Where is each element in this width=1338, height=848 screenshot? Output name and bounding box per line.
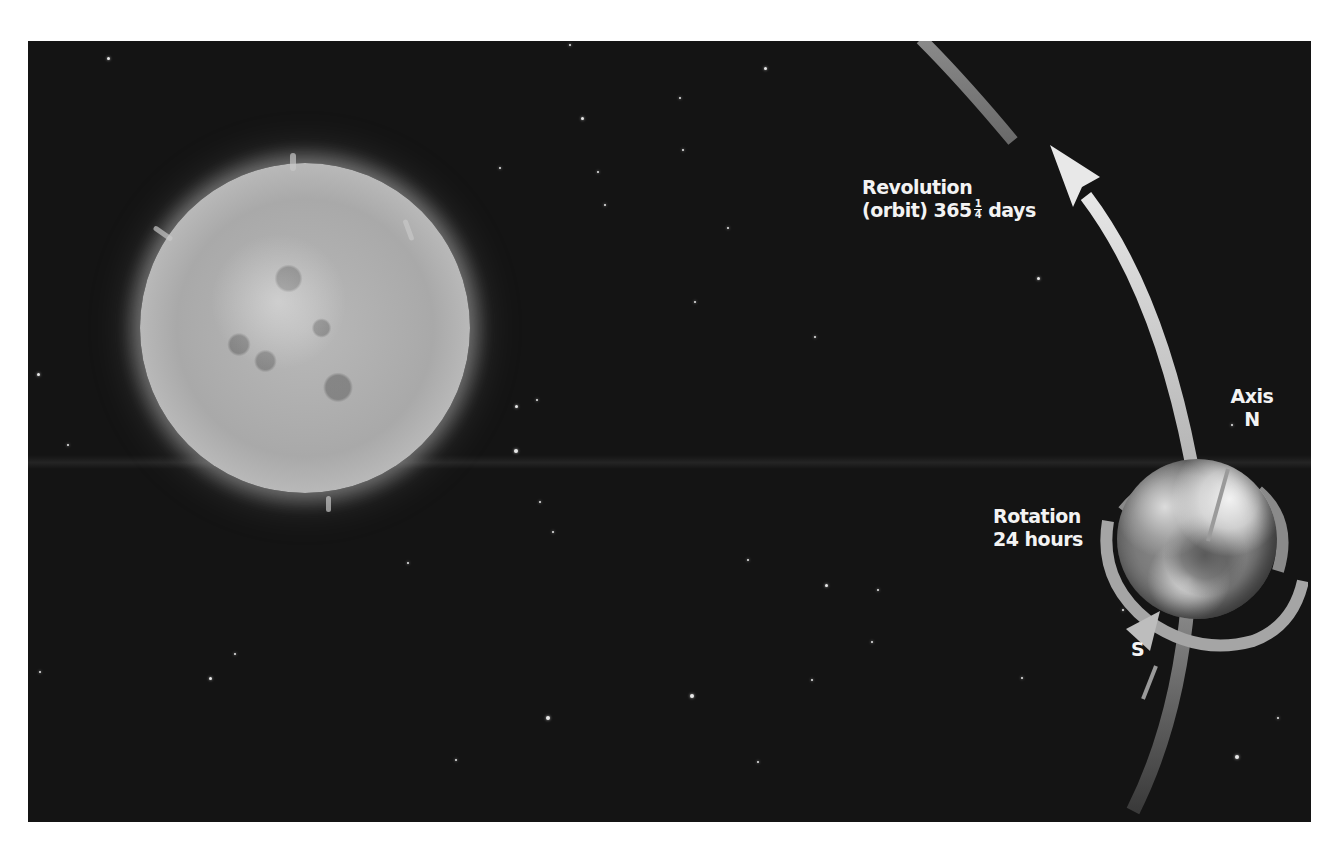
revolution-label: Revolution (orbit) 36514days [862,176,1036,222]
space-background: Revolution (orbit) 36514days Rotation 24… [28,41,1311,822]
fraction-denominator: 4 [974,210,982,220]
rotation-period: 24 hours [993,528,1083,551]
orbit-path-top [921,41,1013,141]
revolution-title: Revolution [862,176,1036,199]
axis-line-south [1143,666,1156,699]
axis-north-label: N [1227,408,1277,431]
orbit-diagram [28,41,1311,822]
revolution-days-number: (orbit) 365 [862,199,972,221]
revolution-period: (orbit) 36514days [862,199,1036,222]
rotation-label: Rotation 24 hours [993,505,1083,551]
revolution-days-unit: days [988,199,1036,221]
fraction-one-quarter: 14 [974,199,982,220]
revolution-arrow [1086,196,1191,461]
axis-south-label: S [1131,638,1144,661]
axis-line-north [1208,469,1228,541]
axis-label: Axis N [1227,385,1277,431]
rotation-ring-front [1088,441,1308,701]
rotation-title: Rotation [993,505,1083,528]
axis-title: Axis [1227,385,1277,408]
